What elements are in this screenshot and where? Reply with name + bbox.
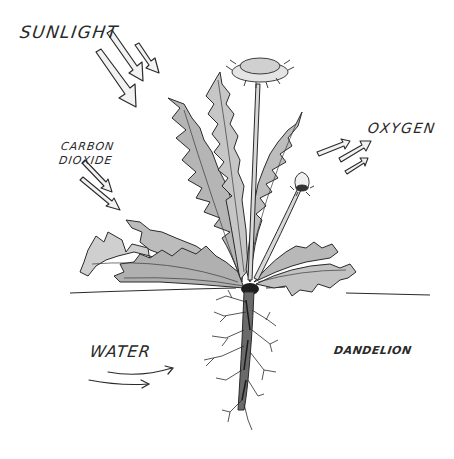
dandelion-illustration xyxy=(0,0,454,459)
leaves xyxy=(80,72,356,296)
taproot xyxy=(238,292,254,410)
carbon-label-line1: CARBON xyxy=(48,140,115,154)
carbon-label-line2: DIOXIDE xyxy=(30,154,113,168)
water-label: WATER xyxy=(89,342,152,361)
flower-bud-icon xyxy=(290,172,314,196)
sunlight-label: SUNLIGHT xyxy=(19,22,121,42)
oxygen-label: OXYGEN xyxy=(367,120,437,136)
dandelion-label: DANDELION xyxy=(333,344,412,357)
oxygen-arrows-icon xyxy=(317,139,371,174)
carbon-dioxide-label: CARBON DIOXIDE xyxy=(46,140,115,168)
water-arrows-icon xyxy=(89,366,173,388)
